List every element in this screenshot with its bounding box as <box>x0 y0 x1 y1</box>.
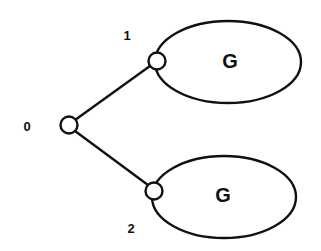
subgraph-label-1: G <box>222 50 238 72</box>
edge-0-1 <box>75 66 150 120</box>
node-label-0: 0 <box>23 119 30 134</box>
node-2 <box>146 183 163 200</box>
subgraph-label-2: G <box>215 184 231 206</box>
node-label-2: 2 <box>127 221 134 236</box>
tree-diagram: 0 1 2 G G <box>0 0 321 251</box>
node-label-1: 1 <box>123 28 130 43</box>
node-0 <box>61 117 78 134</box>
edge-0-2 <box>75 131 148 185</box>
node-1 <box>149 53 166 70</box>
